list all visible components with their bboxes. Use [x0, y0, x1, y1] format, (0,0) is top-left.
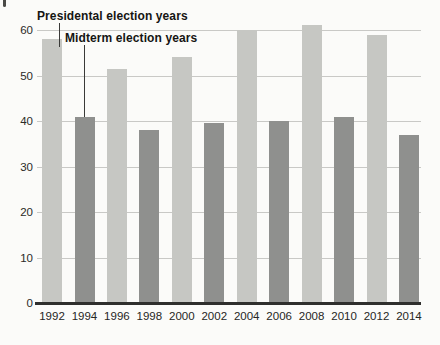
x-tick-label-1996: 1996: [100, 310, 134, 322]
bar-2002: [204, 123, 224, 302]
bar-1994: [75, 117, 95, 303]
x-tick-label-2014: 2014: [392, 310, 426, 322]
y-tick-label-20: 20: [7, 206, 33, 218]
x-tick-label-2002: 2002: [197, 310, 231, 322]
bar-1998: [139, 130, 159, 302]
gridline-30: [37, 167, 421, 168]
y-tick-label-50: 50: [7, 70, 33, 82]
y-tick-label-0: 0: [7, 297, 33, 309]
bar-2008: [302, 25, 322, 302]
midterm-annotation-leader-line: [84, 45, 85, 117]
y-tick-label-60: 60: [7, 24, 33, 36]
gridline-10: [37, 258, 421, 259]
x-tick-label-2006: 2006: [262, 310, 296, 322]
y-tick-label-40: 40: [7, 115, 33, 127]
x-tick-label-1998: 1998: [132, 310, 166, 322]
y-tick-label-30: 30: [7, 161, 33, 173]
x-axis-line: [35, 302, 421, 305]
gridline-20: [37, 212, 421, 213]
x-tick-label-2004: 2004: [230, 310, 264, 322]
bar-2014: [399, 135, 419, 302]
gridline-50: [37, 76, 421, 77]
x-tick-label-2012: 2012: [360, 310, 394, 322]
bar-1996: [107, 69, 127, 302]
midterm-series-label: Midterm election years: [65, 31, 197, 45]
presidential-series-label: Presidental election years: [37, 9, 188, 23]
x-tick-label-1992: 1992: [35, 310, 69, 322]
gridline-40: [37, 121, 421, 122]
bar-chart: 0102030405060 19921994199619982000200220…: [0, 0, 440, 345]
x-tick-label-2010: 2010: [327, 310, 361, 322]
x-tick-label-2008: 2008: [295, 310, 329, 322]
bar-2006: [269, 121, 289, 302]
page-crop-artifact: [3, 0, 6, 7]
bar-2000: [172, 57, 192, 302]
y-tick-label-10: 10: [7, 252, 33, 264]
bar-1992: [42, 39, 62, 302]
bar-2010: [334, 117, 354, 303]
x-tick-label-1994: 1994: [67, 310, 101, 322]
x-tick-label-2000: 2000: [165, 310, 199, 322]
presidential-annotation-leader-line: [59, 23, 60, 47]
bar-2004: [237, 30, 257, 302]
bar-2012: [367, 35, 387, 302]
